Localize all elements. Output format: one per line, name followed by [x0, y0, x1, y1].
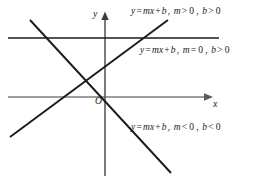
eq-pos-m: m [143, 6, 150, 16]
eq-neg-comma1: , [167, 122, 172, 132]
figure-canvas [0, 0, 266, 176]
eq-zero-equals: = [144, 45, 152, 55]
eq-zero-zero2: 0 [224, 45, 231, 55]
eq-zero-m: m [152, 45, 159, 55]
eq-pos-comma2: , [195, 6, 200, 16]
eq-pos-plus: + [154, 6, 162, 16]
eq-zero-comma1: , [176, 45, 181, 55]
eq-neg-zero2: 0 [215, 122, 222, 132]
eq-zero-b: b [171, 45, 176, 55]
y-axis [101, 12, 108, 177]
eq-neg-rel2: < [207, 122, 215, 132]
eq-pos-b: b [162, 6, 167, 16]
eq-neg-comma2: , [195, 122, 200, 132]
eq-neg-m: m [143, 122, 150, 132]
eq-neg-m2: m [174, 122, 181, 132]
eq-neg-equals: = [135, 122, 143, 132]
equation-label-zero-slope: y=mx+b, m=0, b>0 [140, 45, 231, 55]
x-axis-right-arrow-icon [204, 93, 213, 101]
eq-zero-m2: m [183, 45, 190, 55]
eq-zero-comma2: , [204, 45, 209, 55]
eq-pos-rel2: > [207, 6, 215, 16]
eq-pos-m2: m [174, 6, 181, 16]
eq-zero-rel2: > [216, 45, 224, 55]
eq-pos-comma1: , [167, 6, 172, 16]
eq-neg-b: b [162, 122, 167, 132]
eq-zero-plus: + [163, 45, 171, 55]
y-axis-label: y [93, 8, 97, 19]
equation-label-negative-slope: y=mx+b, m<0, b<0 [131, 122, 222, 132]
x-axis-label: x [213, 98, 217, 109]
origin-label: O [95, 96, 102, 106]
eq-pos-equals: = [135, 6, 143, 16]
linear-functions-figure: y=mx+b, m>0, b>0 y=mx+b, m=0, b>0 y=mx+b… [0, 0, 266, 176]
eq-pos-zero2: 0 [215, 6, 222, 16]
y-axis-up-arrow-icon [101, 12, 108, 21]
equation-label-positive-slope: y=mx+b, m>0, b>0 [131, 6, 222, 16]
x-axis [8, 93, 213, 101]
eq-neg-plus: + [154, 122, 162, 132]
